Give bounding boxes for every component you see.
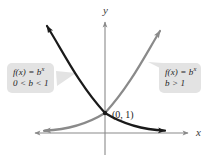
callout-decreasing: f(x) = bx 0 < b < 1 xyxy=(7,63,54,93)
curve-decreasing xyxy=(50,31,165,131)
callout-increasing-function: f(x) = bx xyxy=(165,67,196,78)
callout-increasing: f(x) = bx b > 1 xyxy=(159,63,201,93)
callout-increasing-exponent: x xyxy=(193,65,196,72)
callout-decreasing-condition: 0 < b < 1 xyxy=(13,78,49,89)
exponential-function-figure: y x f(x) = bx 0 < b < 1 f(x) = bx b > 1 … xyxy=(0,0,222,164)
callout-decreasing-function: f(x) = bx xyxy=(13,67,49,78)
curve-decreasing-arrowhead xyxy=(47,26,50,31)
callout-left-tail xyxy=(56,71,76,86)
intersection-point-marker xyxy=(103,111,107,115)
callout-decreasing-exponent: x xyxy=(41,65,44,72)
x-axis-label: x xyxy=(196,127,201,138)
y-axis-label: y xyxy=(103,5,108,16)
intersection-point-label: (0, 1) xyxy=(112,109,134,120)
callout-increasing-condition: b > 1 xyxy=(165,78,196,89)
